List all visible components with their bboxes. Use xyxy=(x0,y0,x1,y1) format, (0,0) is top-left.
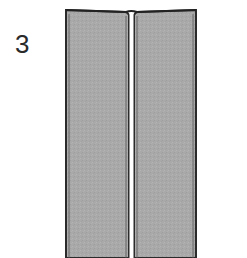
top-edge xyxy=(66,10,196,12)
right-panel xyxy=(134,10,196,258)
center-crease xyxy=(130,13,134,258)
folded-paper-illustration xyxy=(64,6,198,258)
folded-paper-figure xyxy=(64,6,198,258)
left-panel xyxy=(66,10,129,258)
step-number: 3 xyxy=(15,29,29,59)
